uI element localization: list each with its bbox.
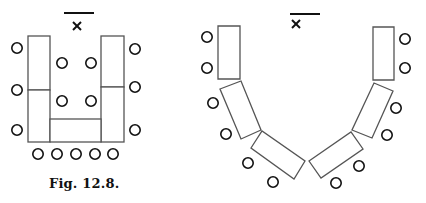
- seat-circle-icon: [12, 43, 22, 53]
- seat-circle-icon: [86, 58, 96, 68]
- seat-circle-icon: [86, 96, 96, 106]
- table-right-3: [309, 132, 363, 178]
- seat-circle-icon: [90, 149, 100, 159]
- seat-circle-icon: [243, 158, 253, 168]
- seat-circle-icon: [400, 63, 410, 73]
- table-right-lower: [101, 87, 124, 142]
- seat-circle-icon: [400, 34, 410, 44]
- seat-circle-icon: [108, 149, 118, 159]
- seat-circle-icon: [354, 161, 364, 171]
- table-left-1: [218, 26, 240, 79]
- seat-circle-icon: [130, 44, 140, 54]
- seat-circle-icon: [57, 96, 67, 106]
- seat-circle-icon: [382, 130, 392, 140]
- seat-circle-icon: [12, 85, 22, 95]
- seat-circle-icon: [12, 125, 22, 135]
- seat-circle-icon: [130, 125, 140, 135]
- u-shaped-layout: [12, 13, 140, 159]
- table-left-lower: [28, 90, 50, 142]
- seat-circle-icon: [130, 82, 140, 92]
- seat-circle-icon: [391, 103, 401, 113]
- table-left-3: [251, 131, 305, 179]
- seating-diagram: [0, 0, 426, 203]
- seat-circle-icon: [57, 58, 67, 68]
- teacher-x-icon: [292, 20, 300, 28]
- table-right-1: [373, 27, 394, 80]
- v-shaped-layout: [202, 14, 410, 188]
- seat-circle-icon: [71, 149, 81, 159]
- table-left-2: [220, 81, 261, 139]
- seat-circle-icon: [331, 178, 341, 188]
- table-right-upper: [101, 36, 124, 87]
- seat-circle-icon: [208, 98, 218, 108]
- seat-circle-icon: [52, 149, 62, 159]
- seat-circle-icon: [221, 129, 231, 139]
- teacher-x-icon: [73, 22, 81, 30]
- seat-circle-icon: [33, 149, 43, 159]
- figure-caption: Fig. 12.8.: [49, 176, 120, 191]
- seat-circle-icon: [202, 63, 212, 73]
- table-left-upper: [28, 36, 50, 90]
- table-bottom: [50, 119, 101, 142]
- seat-circle-icon: [202, 32, 212, 42]
- seat-circle-icon: [268, 177, 278, 187]
